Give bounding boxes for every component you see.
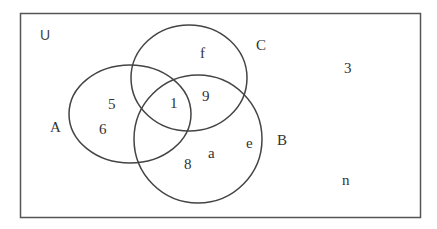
element-bc: 9 xyxy=(202,88,210,104)
element-b-only: a xyxy=(208,145,215,161)
set-b-circle xyxy=(134,75,262,203)
universe-frame xyxy=(21,14,421,218)
element-outside: n xyxy=(342,172,350,188)
venn-diagram: U A B C 5 6 1 9 f 8 a e 3 n xyxy=(0,0,437,229)
element-abc: 1 xyxy=(170,95,178,111)
element-c-only: f xyxy=(200,45,205,61)
universe-label: U xyxy=(40,27,50,43)
element-a-only: 5 xyxy=(108,96,116,112)
element-a-only: 6 xyxy=(99,121,107,137)
element-outside: 3 xyxy=(344,60,352,76)
element-b-only: 8 xyxy=(184,156,192,172)
set-b-label: B xyxy=(277,132,287,148)
set-c-label: C xyxy=(256,37,266,53)
set-c-ellipse xyxy=(131,25,247,131)
element-b-only: e xyxy=(246,135,253,151)
set-a-label: A xyxy=(50,119,61,135)
